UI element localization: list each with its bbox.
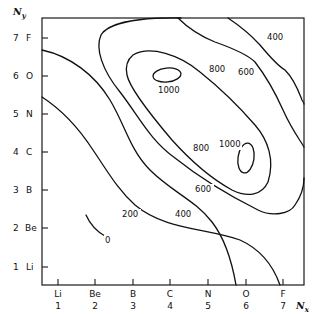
contour-1000-upper xyxy=(152,67,181,84)
contour-label-800: 800 xyxy=(193,143,209,153)
contour-label-400: 400 xyxy=(175,209,191,219)
plot-frame xyxy=(42,18,304,285)
y-tick-5: 5 xyxy=(13,109,19,119)
x-tick-1: 1 xyxy=(55,301,61,311)
contour-label-1000-lower: 1000 xyxy=(219,139,241,149)
y-element-O: O xyxy=(26,71,33,81)
contour-label-1000-upper: 1000 xyxy=(158,85,180,95)
contour-0 xyxy=(86,215,105,236)
contour-lines xyxy=(42,18,304,285)
y-tick-4: 4 xyxy=(13,147,19,157)
y-tick-1: 1 xyxy=(13,262,19,272)
y-element-B: B xyxy=(26,185,32,195)
y-element-Li: Li xyxy=(26,262,34,272)
x-tick-3: 3 xyxy=(130,301,136,311)
x-tick-2: 2 xyxy=(92,301,98,311)
x-element-N: N xyxy=(205,289,212,299)
contour-label-800-upper: 800 xyxy=(209,64,225,74)
y-axis: 7 6 5 4 3 2 1 F O N C B Be Li xyxy=(13,33,48,272)
contour-chart: Ny 7 6 5 4 3 2 1 F O N C B Be Li Li Be xyxy=(0,0,314,314)
y-element-F: F xyxy=(26,33,31,43)
contour-400-upper xyxy=(228,18,304,104)
contour-200 xyxy=(42,50,236,285)
y-axis-label: Ny xyxy=(12,6,27,20)
contour-label-400-upper: 400 xyxy=(267,32,283,42)
contour-labels: 0 200 400 600 800 1000 1000 800 600 400 xyxy=(104,32,286,246)
x-axis: Li Be B C N O F 1 2 3 4 5 6 7 Nx xyxy=(54,279,309,314)
x-element-Li: Li xyxy=(54,289,62,299)
contour-label-0: 0 xyxy=(105,235,110,245)
y-tick-2: 2 xyxy=(13,223,19,233)
x-element-Be: Be xyxy=(89,289,101,299)
x-element-F: F xyxy=(280,289,285,299)
x-element-O: O xyxy=(242,289,249,299)
y-element-Be: Be xyxy=(25,223,37,233)
contour-400 xyxy=(42,97,280,285)
x-tick-6: 6 xyxy=(243,301,249,311)
y-tick-7: 7 xyxy=(13,33,19,43)
x-tick-5: 5 xyxy=(205,301,211,311)
x-element-C: C xyxy=(167,289,173,299)
x-tick-7: 7 xyxy=(280,301,286,311)
y-tick-3: 3 xyxy=(13,185,19,195)
contour-label-200: 200 xyxy=(122,209,138,219)
y-element-N: N xyxy=(26,109,33,119)
y-tick-6: 6 xyxy=(13,71,19,81)
x-element-B: B xyxy=(130,289,136,299)
x-tick-4: 4 xyxy=(167,301,173,311)
contour-label-600: 600 xyxy=(195,184,211,194)
contour-label-600-upper: 600 xyxy=(238,67,254,77)
x-axis-label: Nx xyxy=(295,300,310,314)
y-element-C: C xyxy=(26,147,32,157)
